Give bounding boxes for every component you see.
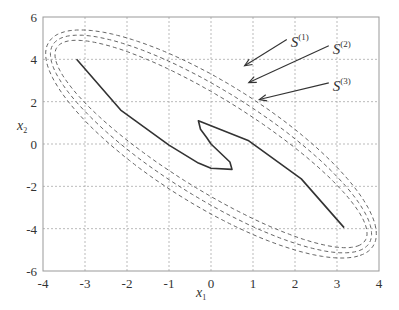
- arrowhead-icon: [245, 59, 253, 66]
- y-tick-label: -6: [26, 264, 37, 279]
- x-tick-label: -4: [38, 276, 49, 291]
- trajectory-line: [77, 59, 345, 227]
- annotation-arrow: [245, 39, 287, 65]
- y-axis-label: x2: [16, 118, 27, 135]
- y-tick-label: 0: [31, 137, 38, 152]
- x-tick-label: 3: [334, 276, 341, 291]
- x-tick-label: -2: [122, 276, 133, 291]
- tick-labels: -4-3-2-101234-6-4-20246: [26, 10, 383, 291]
- y-tick-label: -4: [26, 222, 37, 237]
- annotation-arrow: [259, 83, 329, 100]
- chart: S(1)S(2)S(3) -4-3-2-101234-6-4-20246 x1x…: [0, 0, 399, 310]
- x-tick-label: 0: [208, 276, 215, 291]
- annotation-label: S(3): [333, 76, 351, 94]
- x-tick-label: 4: [376, 276, 383, 291]
- x-tick-label: 2: [292, 276, 299, 291]
- x-tick-label: -1: [164, 276, 175, 291]
- y-tick-label: 2: [31, 95, 38, 110]
- y-tick-label: 4: [31, 52, 38, 67]
- x-axis-label: x1: [195, 285, 206, 302]
- x-tick-label: -3: [80, 276, 91, 291]
- annotation-arrow: [249, 46, 329, 83]
- annotation-label: S(2): [333, 39, 351, 57]
- x-tick-label: 1: [250, 276, 257, 291]
- annotations: S(1)S(2)S(3): [245, 32, 351, 100]
- annotation-label: S(1): [291, 32, 309, 50]
- y-tick-label: -2: [26, 179, 37, 194]
- y-tick-label: 6: [31, 10, 38, 25]
